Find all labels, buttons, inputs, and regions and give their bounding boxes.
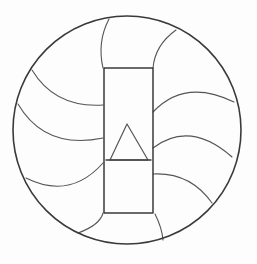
blade-top-right <box>153 30 176 68</box>
blade-left-1 <box>32 70 103 105</box>
blade-bottom <box>155 214 163 240</box>
center-rectangle <box>104 68 153 213</box>
blade-top-left <box>101 19 109 68</box>
blade-left-2 <box>18 104 103 140</box>
blade-right-2 <box>153 136 232 157</box>
triangle-icon <box>110 124 148 160</box>
outer-circle <box>13 16 241 244</box>
blade-right-1 <box>153 92 234 112</box>
blades-group <box>18 19 234 240</box>
blade-left-4 <box>78 213 103 233</box>
turbine-diagram <box>0 0 257 264</box>
blade-right-3 <box>153 174 212 203</box>
blade-left-3 <box>26 163 103 186</box>
diagram-canvas <box>0 0 257 264</box>
